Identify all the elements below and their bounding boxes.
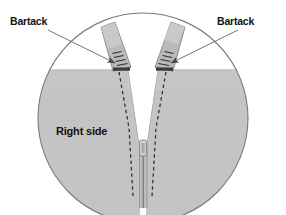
label-bartack-left: Bartack	[10, 15, 47, 27]
diagram-canvas: Bartack Bartack Right side	[0, 0, 286, 215]
fabric-shade-right	[155, 70, 266, 90]
bartack-left-bar	[113, 68, 130, 71]
bartack-right-bar	[156, 68, 173, 71]
zipper-slider	[140, 140, 147, 156]
fabric-shade-left	[20, 70, 131, 90]
fabric-panel-right	[146, 70, 266, 215]
label-bartack-right: Bartack	[217, 15, 254, 27]
label-right-side: Right side	[56, 125, 107, 137]
sewing-detail-illustration	[0, 0, 286, 215]
